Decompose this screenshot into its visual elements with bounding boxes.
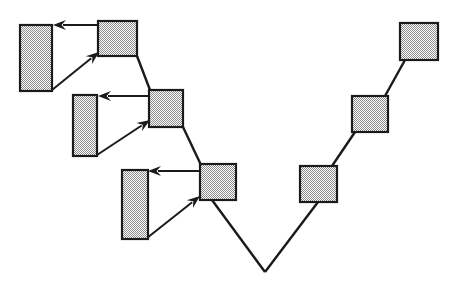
edge-e2 xyxy=(183,127,201,165)
node-sq4 xyxy=(300,166,337,202)
tree-diagram-svg xyxy=(0,0,462,296)
node-sq6 xyxy=(400,23,438,60)
edge-e3 xyxy=(212,200,265,272)
tall-rect-rect2 xyxy=(73,95,97,156)
edges-layer xyxy=(137,56,405,272)
edge-e1 xyxy=(137,56,150,90)
tall-rect-rect3 xyxy=(122,170,148,239)
tall-rect-rect1 xyxy=(20,25,52,91)
edge-e5 xyxy=(332,132,355,166)
edge-e6 xyxy=(385,60,405,96)
diagram-canvas xyxy=(0,0,462,296)
node-sq5 xyxy=(352,96,388,132)
arrow-shaft-a6 xyxy=(147,202,192,238)
node-sq3 xyxy=(200,164,236,200)
edge-e4 xyxy=(265,202,318,272)
arrow-shaft-a2 xyxy=(52,58,91,90)
node-sq1 xyxy=(98,21,137,56)
node-sq2 xyxy=(149,90,183,127)
arrow-shaft-a4 xyxy=(97,126,142,155)
